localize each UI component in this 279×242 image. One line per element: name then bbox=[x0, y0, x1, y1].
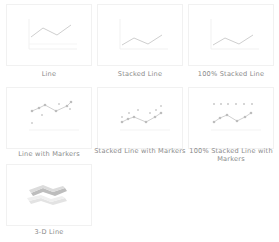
tile-stacked-line-markers[interactable]: Stacked Line with Markers bbox=[97, 87, 183, 157]
line-markers-chart-icon bbox=[6, 87, 92, 149]
3d-line-chart-icon bbox=[6, 164, 92, 226]
line-chart-icon bbox=[6, 4, 92, 66]
tile-label: Line with Markers bbox=[0, 150, 98, 158]
chart-type-gallery: Line Stacked Line 100% Stacked Line bbox=[0, 0, 279, 242]
stacked-line-chart-icon bbox=[97, 4, 183, 66]
percent-stacked-line-chart-icon bbox=[188, 4, 274, 66]
tile-100-stacked-line[interactable]: 100% Stacked Line bbox=[188, 4, 274, 80]
tile-100-stacked-line-markers[interactable]: 100% Stacked Line with Markers bbox=[188, 87, 274, 157]
tile-line-markers[interactable]: Line with Markers bbox=[6, 87, 92, 157]
tile-label: 3-D Line bbox=[0, 228, 98, 236]
tile-label: 100% Stacked Line bbox=[182, 70, 279, 78]
tile-3d-line[interactable]: 3-D Line bbox=[6, 164, 92, 238]
tile-label: Stacked Line bbox=[91, 70, 189, 78]
tile-label: Stacked Line with Markers bbox=[91, 147, 189, 155]
tile-label: Line bbox=[0, 70, 98, 78]
tile-label: 100% Stacked Line with Markers bbox=[182, 147, 279, 163]
percent-stacked-line-markers-chart-icon bbox=[188, 87, 274, 149]
tile-stacked-line[interactable]: Stacked Line bbox=[97, 4, 183, 80]
tile-line[interactable]: Line bbox=[6, 4, 92, 80]
stacked-line-markers-chart-icon bbox=[97, 87, 183, 149]
